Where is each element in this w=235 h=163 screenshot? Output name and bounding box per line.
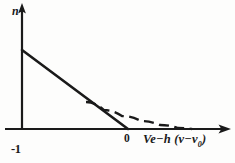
x-axis-label-main: Ve−h (ν−ν	[143, 132, 198, 146]
x-axis-label: Ve−h (ν−ν0)	[143, 133, 206, 149]
dashed-decay-curve	[86, 102, 192, 129]
y-tick-label-minus-one: -1	[11, 143, 21, 156]
y-axis-label: n	[12, 5, 19, 17]
solid-descending-line	[22, 50, 128, 129]
figure-container: n -1 0 Ve−h (ν−ν0)	[0, 0, 235, 163]
x-axis-label-closing: )	[202, 132, 206, 146]
x-tick-label-zero: 0	[124, 133, 130, 145]
